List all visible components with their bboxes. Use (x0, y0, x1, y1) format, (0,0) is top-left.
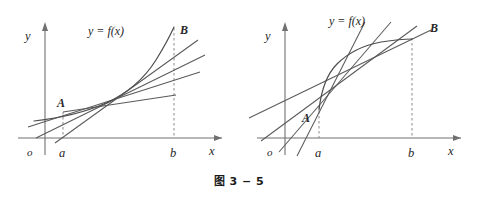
left-y-axis-label: y (23, 29, 31, 43)
left-tick-a-label: a (59, 146, 65, 160)
left-diagram: y x o a b A B y = f(x) (0, 0, 239, 175)
left-point-b-label: B (179, 23, 188, 37)
curve-y-equals-f-of-x (34, 27, 174, 121)
tangent-line-1 (249, 30, 431, 118)
tangent-line-4 (297, 22, 365, 156)
left-tangent-lines (28, 40, 205, 143)
tangent-line-3 (279, 22, 391, 152)
figure-3-5: y x o a b A B y = f(x) (0, 0, 478, 197)
left-tick-b-label: b (170, 146, 176, 160)
right-tick-a-label: a (315, 146, 321, 160)
left-dashed-guides (63, 28, 174, 138)
right-tick-b-label: b (408, 146, 414, 160)
right-origin-label: o (267, 146, 273, 158)
x-axis-arrowhead (214, 135, 222, 141)
panel-left-convex: y x o a b A B y = f(x) (0, 0, 239, 175)
left-axes (18, 22, 222, 155)
y-axis-arrowhead (42, 22, 48, 31)
tangent-line-2 (261, 26, 417, 141)
left-point-a-label: A (56, 96, 65, 110)
x-axis-arrowhead (453, 135, 461, 141)
left-x-axis-label: x (208, 144, 215, 158)
right-axes (257, 22, 461, 155)
right-tangent-lines (249, 22, 431, 156)
right-point-b-label: B (429, 21, 438, 35)
curve-y-equals-f-of-x (319, 39, 412, 110)
left-origin-label: o (27, 146, 33, 158)
left-function-label: y = f(x) (87, 24, 124, 38)
panel-right-concave: y x o a b A B y = f(x) (239, 0, 478, 175)
figure-caption: 图 3 − 5 (0, 172, 478, 188)
right-diagram: y x o a b A B y = f(x) (239, 0, 478, 175)
right-point-a-label: A (301, 111, 310, 125)
right-x-axis-label: x (447, 144, 454, 158)
right-y-axis-label: y (263, 29, 271, 43)
y-axis-arrowhead (282, 22, 288, 31)
right-function-label: y = f(x) (328, 14, 365, 28)
